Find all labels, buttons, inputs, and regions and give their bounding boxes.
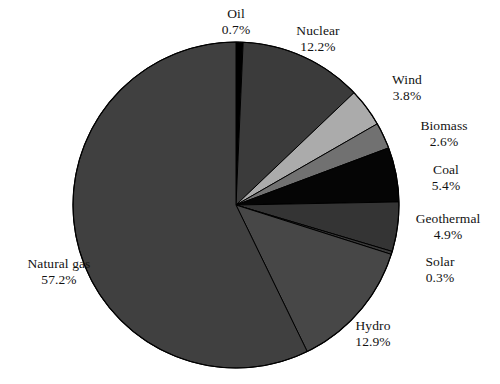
- pie-label-solar-name: Solar: [404, 254, 476, 270]
- pie-label-natural-gas-pct: 57.2%: [6, 272, 112, 288]
- pie-label-coal-name: Coal: [410, 162, 482, 178]
- pie-label-oil-pct: 0.7%: [192, 22, 280, 38]
- pie-label-hydro-pct: 12.9%: [330, 334, 416, 350]
- pie-label-biomass-name: Biomass: [398, 118, 490, 134]
- pie-label-wind-pct: 3.8%: [370, 88, 444, 104]
- pie-label-coal-pct: 5.4%: [410, 178, 482, 194]
- pie-chart-page: Oil 0.7% Nuclear 12.2% Wind 3.8% Biomass…: [0, 0, 500, 384]
- pie-label-geothermal: Geothermal 4.9%: [396, 211, 500, 243]
- pie-label-natural-gas: Natural gas 57.2%: [6, 256, 112, 288]
- pie-label-coal: Coal 5.4%: [410, 162, 482, 194]
- pie-label-solar: Solar 0.3%: [404, 254, 476, 286]
- pie-label-geothermal-name: Geothermal: [396, 211, 500, 227]
- pie-label-nuclear-name: Nuclear: [272, 23, 364, 39]
- pie-label-oil-name: Oil: [192, 6, 280, 22]
- pie-label-solar-pct: 0.3%: [404, 270, 476, 286]
- pie-label-natural-gas-name: Natural gas: [6, 256, 112, 272]
- pie-label-oil: Oil 0.7%: [192, 6, 280, 38]
- pie-label-wind: Wind 3.8%: [370, 72, 444, 104]
- pie-label-hydro: Hydro 12.9%: [330, 318, 416, 350]
- pie-label-nuclear-pct: 12.2%: [272, 39, 364, 55]
- pie-label-wind-name: Wind: [370, 72, 444, 88]
- pie-label-hydro-name: Hydro: [330, 318, 416, 334]
- pie-label-biomass-pct: 2.6%: [398, 134, 490, 150]
- pie-label-geothermal-pct: 4.9%: [396, 227, 500, 243]
- pie-label-biomass: Biomass 2.6%: [398, 118, 490, 150]
- pie-label-nuclear: Nuclear 12.2%: [272, 23, 364, 55]
